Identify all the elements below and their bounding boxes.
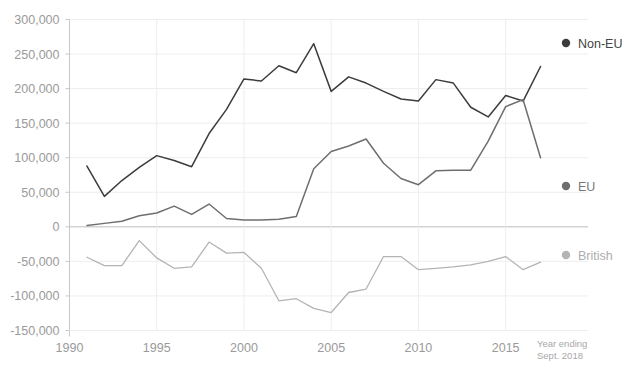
chart-legend: Non-EUEUBritish [562,37,623,263]
data-series [87,44,541,313]
y-axis-tick-label: -100,000 [10,289,59,303]
axis-annotation: Year endingSept. 2018 [537,338,587,361]
line-chart: 300,000250,000200,000150,000100,00050,00… [0,0,627,369]
legend-marker-non-eu[interactable] [562,39,570,47]
y-axis-tick-label: 300,000 [14,13,59,27]
x-axis-tick-label: 2005 [317,341,345,355]
legend-label-eu[interactable]: EU [578,180,595,194]
series-line-non-eu [87,44,541,197]
x-axis: 199019952000200520102015 [56,331,588,355]
y-axis-tick-label: -150,000 [10,324,59,338]
legend-label-british[interactable]: British [578,249,613,263]
x-axis-tick-label: 1995 [143,341,171,355]
series-line-british [87,241,541,313]
x-axis-tick-label: 2015 [492,341,520,355]
x-axis-tick-label: 2010 [405,341,433,355]
x-axis-tick-label: 2000 [230,341,258,355]
legend-label-non-eu[interactable]: Non-EU [578,37,622,51]
y-axis-tick-label: 150,000 [14,117,59,131]
x-axis-tick-label: 1990 [56,341,84,355]
legend-marker-british[interactable] [562,251,570,259]
y-axis-tick-label: 200,000 [14,82,59,96]
y-axis: 300,000250,000200,000150,000100,00050,00… [10,13,69,338]
axis-annotation-line2: Sept. 2018 [537,350,583,361]
y-axis-tick-label: 50,000 [21,186,59,200]
series-line-eu [87,100,541,226]
gridlines [70,20,589,331]
y-axis-tick-label: -50,000 [17,255,59,269]
chart-container: 300,000250,000200,000150,000100,00050,00… [0,0,627,369]
y-axis-tick-label: 0 [53,220,60,234]
y-axis-tick-label: 100,000 [14,151,59,165]
y-axis-tick-label: 250,000 [14,48,59,62]
axis-annotation-line1: Year ending [537,338,587,349]
legend-marker-eu[interactable] [562,182,570,190]
